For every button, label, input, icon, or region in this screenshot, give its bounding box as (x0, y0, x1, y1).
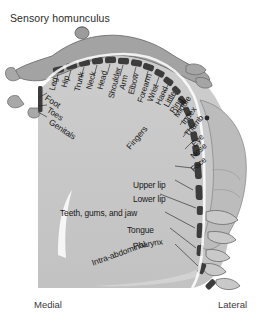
medial-orientation-label: Medial (34, 299, 62, 310)
label-lower-lip: Lower lip (133, 194, 166, 204)
homunculus-toes (8, 95, 24, 107)
eye-dot (205, 116, 210, 121)
sensory-homunculus-figure (0, 0, 275, 331)
label-upper-lip: Upper lip (133, 180, 166, 190)
homunculus-hand (186, 64, 206, 75)
lateral-orientation-label: Lateral (218, 299, 247, 310)
page-title: Sensory homunculus (10, 12, 110, 24)
label-tongue: Tongue (127, 225, 154, 235)
label-teeth-gums-jaw: Teeth, gums, and jaw (60, 208, 137, 218)
